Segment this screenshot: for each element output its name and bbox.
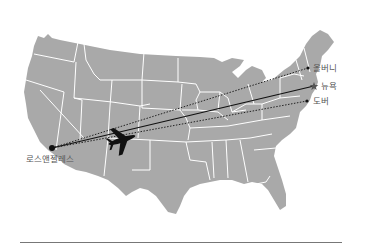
label-albany: 올버니 bbox=[313, 64, 337, 73]
us-flight-route-map bbox=[0, 0, 370, 252]
label-dover: 도버 bbox=[313, 97, 329, 106]
label-los-angeles: 로스앤젤레스 bbox=[26, 155, 74, 164]
origin-point-los-angeles bbox=[49, 145, 55, 151]
bottom-divider bbox=[20, 242, 342, 243]
point-albany bbox=[306, 66, 309, 69]
label-newyork: 뉴욕 bbox=[321, 82, 337, 91]
point-dover bbox=[305, 99, 308, 102]
us-landmass bbox=[24, 30, 334, 214]
